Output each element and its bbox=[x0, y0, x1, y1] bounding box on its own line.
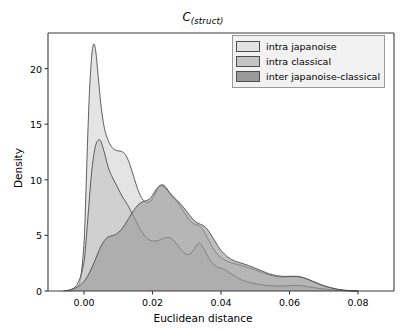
x-tick-label: 0.02 bbox=[142, 297, 163, 308]
x-tick-label: 0.06 bbox=[279, 297, 300, 308]
legend: intra japanoiseintra classicalinter japa… bbox=[232, 35, 385, 88]
figure: C(struct) 0.000.020.040.060.08 05101520 … bbox=[0, 0, 406, 331]
legend-label: inter japanoise-classical bbox=[266, 71, 380, 82]
y-tick-label: 0 bbox=[16, 286, 42, 297]
legend-label: intra japanoise bbox=[266, 41, 337, 52]
x-tick-label: 0.08 bbox=[347, 297, 368, 308]
legend-item: inter japanoise-classical bbox=[236, 69, 380, 84]
legend-swatch-icon bbox=[236, 56, 260, 67]
legend-label: intra classical bbox=[266, 56, 331, 67]
x-axis-label: Euclidean distance bbox=[0, 312, 406, 324]
y-tick-label: 20 bbox=[16, 63, 42, 74]
legend-item: intra japanoise bbox=[236, 39, 380, 54]
y-axis-label: Density bbox=[12, 128, 24, 208]
legend-swatch-icon bbox=[236, 71, 260, 82]
y-tick-label: 5 bbox=[16, 230, 42, 241]
x-tick-label: 0.00 bbox=[73, 297, 94, 308]
x-tick-label: 0.04 bbox=[210, 297, 231, 308]
legend-swatch-icon bbox=[236, 41, 260, 52]
legend-item: intra classical bbox=[236, 54, 380, 69]
